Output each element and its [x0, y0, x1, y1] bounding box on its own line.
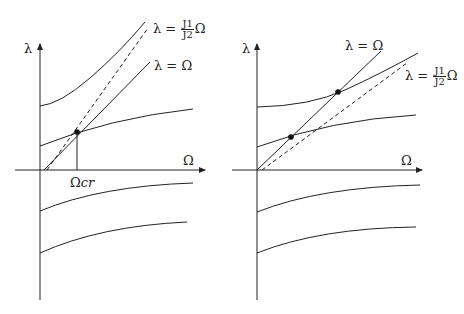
- left-x-axis-label: Ω: [183, 154, 194, 167]
- left-upper-curve: [40, 22, 145, 106]
- left-lambda-equals-omega-line: [44, 62, 150, 170]
- left-y-axis-label: λ: [24, 42, 32, 55]
- right-intersection-point-upper: [335, 89, 341, 95]
- right-lower-curve-1: [257, 185, 420, 212]
- right-dashed-ratio-line: [262, 63, 407, 170]
- right-y-axis-label: λ: [242, 42, 250, 55]
- critical-suffix: cr: [81, 175, 95, 190]
- dashed-suffix: Ω: [447, 68, 458, 83]
- right-middle-curve: [257, 115, 416, 147]
- dashed-suffix: Ω: [195, 21, 206, 36]
- left-dashed-line-label: λ = J1J2Ω: [153, 19, 206, 40]
- dashed-prefix: λ =: [405, 68, 428, 83]
- right-line-label: λ = Ω: [345, 39, 383, 52]
- left-intersection-point: [74, 129, 80, 135]
- ratio-fraction: J1J2: [181, 19, 193, 40]
- right-lambda-equals-omega-line: [257, 51, 381, 170]
- left-lower-curve-2: [40, 222, 187, 253]
- right-x-axis-label: Ω: [401, 154, 412, 167]
- right-dashed-line-label: λ = J1J2Ω: [405, 66, 458, 87]
- left-dashed-ratio-line: [47, 28, 148, 170]
- left-critical-omega-label: Ωcr: [70, 176, 94, 189]
- right-lower-curve-2: [257, 227, 416, 253]
- ratio-fraction: J1J2: [433, 66, 445, 87]
- critical-omega-symbol: Ω: [70, 175, 81, 190]
- diagram-canvas: [0, 0, 464, 314]
- left-line-label: λ = Ω: [154, 59, 192, 72]
- left-lower-curve-1: [40, 183, 193, 211]
- left-middle-curve: [40, 109, 193, 146]
- right-upper-curve: [257, 53, 418, 107]
- dashed-prefix: λ =: [153, 21, 176, 36]
- right-intersection-point-lower: [288, 134, 294, 140]
